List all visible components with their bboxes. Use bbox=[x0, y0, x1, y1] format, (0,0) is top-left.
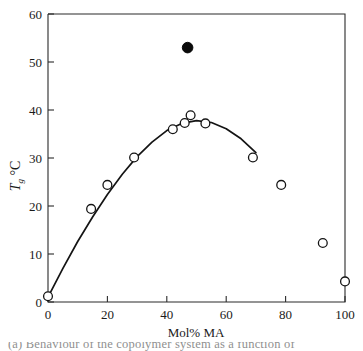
data-markers-open bbox=[44, 111, 350, 301]
y-tick-label-20: 20 bbox=[29, 199, 42, 214]
x-axis-tick-labels: 0 20 40 60 80 100 bbox=[45, 307, 355, 322]
tg-composition-chart: 0 10 20 30 40 50 60 0 20 40 60 80 100 Mo… bbox=[0, 0, 363, 351]
data-point-open bbox=[130, 153, 139, 162]
y-axis-title: Tg °C bbox=[8, 161, 25, 192]
data-point-open bbox=[249, 153, 258, 162]
y-axis-title-unit: °C bbox=[8, 161, 23, 176]
x-tick-label-80: 80 bbox=[279, 307, 292, 322]
data-point-open bbox=[186, 111, 195, 120]
fit-curve bbox=[48, 121, 256, 298]
y-tick-label-40: 40 bbox=[29, 103, 42, 118]
y-axis-tick-labels: 0 10 20 30 40 50 60 bbox=[29, 7, 42, 310]
data-point-open bbox=[341, 277, 350, 286]
data-point-open bbox=[44, 292, 53, 301]
y-tick-label-0: 0 bbox=[36, 295, 43, 310]
plot-frame bbox=[48, 14, 345, 302]
svg-text:Tg °C: Tg °C bbox=[8, 161, 25, 192]
x-axis-ticks bbox=[48, 296, 345, 302]
data-markers-filled bbox=[182, 42, 193, 53]
y-axis-ticks bbox=[48, 14, 54, 302]
data-point-open bbox=[201, 119, 210, 128]
y-tick-label-60: 60 bbox=[29, 7, 42, 22]
data-point-open bbox=[103, 181, 112, 190]
caption-strip: (a) Behaviour of the copolymer system as… bbox=[0, 342, 363, 351]
x-tick-label-60: 60 bbox=[220, 307, 233, 322]
y-tick-label-30: 30 bbox=[29, 151, 42, 166]
data-point-open bbox=[168, 125, 177, 134]
y-tick-label-50: 50 bbox=[29, 55, 42, 70]
x-tick-label-20: 20 bbox=[101, 307, 114, 322]
x-tick-label-0: 0 bbox=[45, 307, 52, 322]
figure-caption: (a) Behaviour of the copolymer system as… bbox=[8, 342, 360, 351]
x-axis-title: Mol% MA bbox=[168, 325, 225, 340]
data-point-open bbox=[277, 181, 286, 190]
data-point-open bbox=[180, 119, 189, 128]
data-point-open bbox=[318, 239, 327, 248]
x-tick-label-100: 100 bbox=[335, 307, 355, 322]
data-point-open bbox=[87, 205, 96, 214]
data-point-filled bbox=[182, 42, 193, 53]
y-tick-label-10: 10 bbox=[29, 247, 42, 262]
figure-container: 0 10 20 30 40 50 60 0 20 40 60 80 100 Mo… bbox=[0, 0, 363, 351]
x-tick-label-40: 40 bbox=[160, 307, 173, 322]
